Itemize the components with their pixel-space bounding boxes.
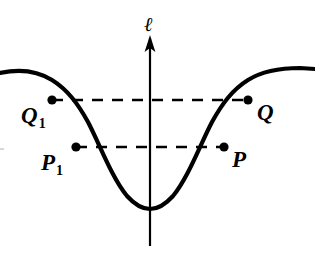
point-dot-Q — [243, 95, 252, 104]
point-dot-P1 — [71, 142, 80, 151]
point-dot-P — [219, 142, 228, 151]
point-label-Q: Q — [257, 101, 274, 124]
point-label-P1-base: P — [41, 150, 55, 175]
point-label-Q1: Q1 — [21, 104, 45, 127]
point-label-P1-subscript: 1 — [56, 163, 63, 178]
geometry-figure: ℓ Q1 Q P1 P — [0, 0, 315, 262]
point-label-P1: P1 — [41, 151, 62, 174]
point-label-P: P — [232, 148, 246, 171]
point-label-P-base: P — [232, 147, 246, 172]
figure-canvas — [0, 0, 315, 262]
point-label-Q-base: Q — [257, 100, 274, 125]
u-shaped-curve-path — [0, 68, 315, 209]
point-label-Q1-base: Q — [21, 103, 38, 128]
point-dot-Q1 — [47, 95, 56, 104]
point-label-Q1-subscript: 1 — [39, 116, 46, 131]
left-edge-artifact — [0, 148, 4, 150]
axis-label-ell: ℓ — [144, 14, 152, 34]
